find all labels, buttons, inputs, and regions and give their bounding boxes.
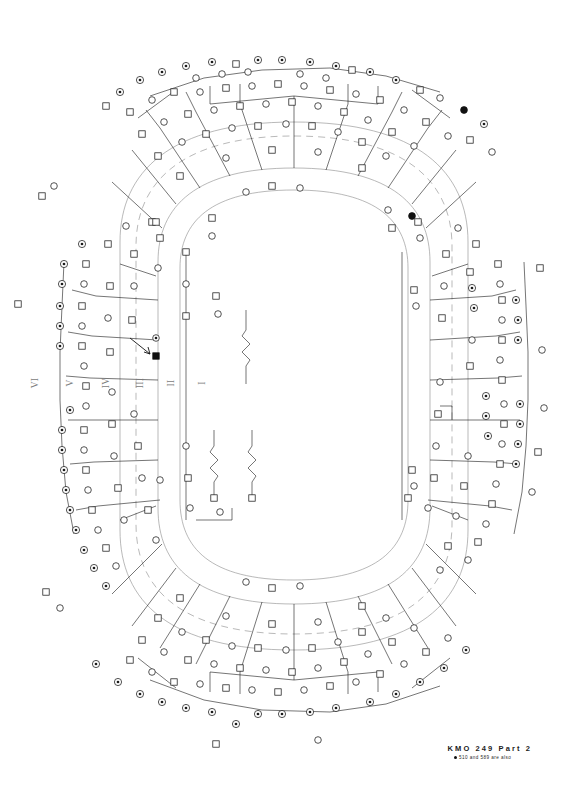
pedigree-svg <box>0 0 588 786</box>
caption-footnote-text: 510 and 589 are also <box>459 755 511 760</box>
pedigree-figure <box>0 0 588 786</box>
caption-footnote: 510 and 589 are also <box>448 755 532 760</box>
page-canvas: VI V IV III II I KMO 249 Part 2 510 and … <box>0 0 588 786</box>
pedigree-symbols <box>15 56 548 747</box>
caption-title: KMO 249 Part 2 <box>448 744 532 753</box>
generation-rings <box>120 122 468 650</box>
figure-caption: KMO 249 Part 2 510 and 589 are also <box>448 744 532 760</box>
filled-circle-icon <box>454 756 457 759</box>
pedigree-connectors <box>60 68 528 712</box>
